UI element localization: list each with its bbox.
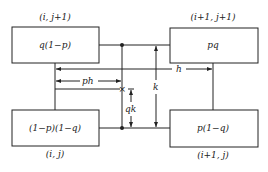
k-label: k [153,82,158,92]
node-bottom-right-value: p(1−q) [197,123,229,133]
node-bottom-right-coord: (i+1, j) [197,150,229,160]
node-top-right: (i+1, j+1) pq [170,12,258,63]
node-bottom-left-value: (1−p)(1−q) [29,123,82,133]
bilinear-interpolation-diagram: h ph × qk k (i, j+1) q(1−p) (i+1, j+1) p… [0,0,268,172]
node-bottom-left: (1−p)(1−q) (i, j) [12,110,99,159]
node-top-right-coord: (i+1, j+1) [191,12,236,22]
bottom-node-dot [120,126,124,130]
ph-label: ph [82,76,94,86]
node-top-left: (i, j+1) q(1−p) [12,12,99,63]
node-top-left-value: q(1−p) [39,40,71,50]
node-bottom-left-coord: (i, j) [46,149,65,159]
node-bottom-right: p(1−q) (i+1, j) [170,110,258,160]
node-top-right-value: pq [207,40,219,50]
h-label: h [176,64,182,74]
node-top-left-coord: (i, j+1) [39,12,71,22]
qk-label: qk [125,104,136,114]
interpolation-point-marker: × [119,84,127,94]
top-node-dot [120,43,124,47]
